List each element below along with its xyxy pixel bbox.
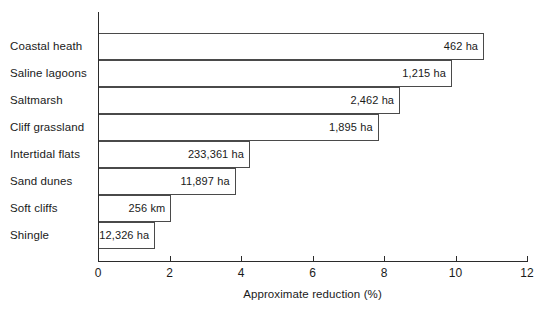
x-tick-label: 8 [364, 266, 404, 280]
x-tick-label: 4 [221, 266, 261, 280]
x-axis-title: Approximate reduction (%) [98, 288, 527, 300]
bar-row: 1,215 ha [98, 60, 527, 87]
category-label: Saline lagoons [10, 60, 94, 87]
x-tick-mark [384, 256, 385, 262]
category-label: Soft cliffs [10, 195, 94, 222]
bar-row: 1,895 ha [98, 114, 527, 141]
category-axis-labels: Coastal heathSaline lagoonsSaltmarshClif… [0, 33, 92, 249]
x-tick-mark [98, 256, 99, 262]
category-label: Saltmarsh [10, 87, 94, 114]
x-tick-mark [313, 256, 314, 262]
category-label: Sand dunes [10, 168, 94, 195]
bar-value-label: 2,462 ha [98, 87, 394, 114]
bar-series: 462 ha1,215 ha2,462 ha1,895 ha233,361 ha… [98, 33, 527, 249]
bar-value-label: 12,326 ha [98, 222, 149, 249]
bar-value-label: 1,215 ha [98, 60, 446, 87]
bar-row: 462 ha [98, 33, 527, 60]
category-label: Intertidal flats [10, 141, 94, 168]
bar-row: 12,326 ha [98, 222, 527, 249]
y-axis-line [98, 12, 99, 262]
x-tick-label: 0 [78, 266, 118, 280]
bar-value-label: 1,895 ha [98, 114, 373, 141]
category-label: Cliff grassland [10, 114, 94, 141]
bar-value-label: 462 ha [98, 33, 478, 60]
bar-value-label: 256 km [98, 195, 165, 222]
x-tick-mark [527, 256, 528, 262]
bar-value-label: 11,897 ha [98, 168, 230, 195]
x-tick-label: 2 [150, 266, 190, 280]
bar-row: 11,897 ha [98, 168, 527, 195]
bar-row: 256 km [98, 195, 527, 222]
bar-row: 2,462 ha [98, 87, 527, 114]
bar-chart: Coastal heathSaline lagoonsSaltmarshClif… [0, 0, 548, 313]
bar-row: 233,361 ha [98, 141, 527, 168]
x-tick-mark [241, 256, 242, 262]
category-label: Shingle [10, 222, 94, 249]
x-tick-label: 6 [293, 266, 333, 280]
plot-area: 462 ha1,215 ha2,462 ha1,895 ha233,361 ha… [98, 12, 527, 249]
x-tick-mark [170, 256, 171, 262]
x-tick-mark [456, 256, 457, 262]
category-label: Coastal heath [10, 33, 94, 60]
bar-value-label: 233,361 ha [98, 141, 244, 168]
x-tick-label: 12 [507, 266, 547, 280]
x-tick-label: 10 [436, 266, 476, 280]
